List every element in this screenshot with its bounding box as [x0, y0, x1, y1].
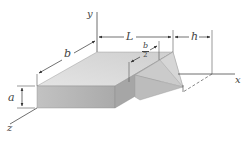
x-axis-label: x — [235, 75, 241, 85]
dim-h-label: h — [191, 31, 198, 42]
dim-bhalf-numerator: b — [143, 42, 148, 50]
z-axis-label: z — [7, 123, 12, 133]
composite-body-diagram: y x z b L h a b 2 — [0, 0, 249, 142]
dim-bhalf-denominator: 2 — [143, 52, 147, 59]
block-front-face — [37, 86, 115, 108]
dim-b-line-1 — [39, 60, 62, 73]
diagram-svg — [0, 0, 249, 142]
y-axis-label: y — [87, 9, 93, 19]
dim-b-line-2 — [74, 41, 95, 53]
dim-a-label: a — [8, 92, 15, 103]
dim-b-label: b — [64, 48, 71, 59]
z-axis — [10, 108, 37, 124]
dim-bhalf-line-2 — [150, 46, 157, 50]
dim-l-label: L — [126, 31, 133, 42]
hidden-edge-dashed — [183, 74, 212, 92]
